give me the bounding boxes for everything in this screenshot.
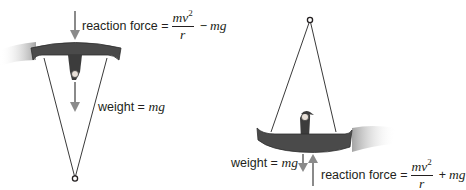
reaction-tail: mg (210, 19, 227, 33)
reaction-tail: mg (449, 168, 466, 182)
person-hanging-icon (68, 55, 82, 80)
reaction-prefix: reaction force = (82, 20, 169, 33)
motion-blur-left (0, 42, 36, 66)
weight-arrow-right (298, 163, 308, 172)
rope-left-a (44, 58, 75, 178)
operator: − (200, 20, 207, 33)
fraction: mv2 r (172, 11, 194, 41)
right-weight-label: weight = mg (231, 156, 298, 170)
pivot-left (72, 176, 77, 181)
right-reaction-force-label: reaction force = mv2 r + mg (321, 160, 466, 190)
rope-right-b (310, 20, 336, 132)
reaction-arrow-right (308, 154, 318, 163)
left-weight-label: weight = mg (98, 100, 165, 114)
left-reaction-force-label: reaction force = mv2 r − mg (82, 11, 227, 41)
reaction-prefix: reaction force = (321, 169, 408, 182)
motion-blur-right (352, 126, 396, 152)
weight-arrow-left (70, 102, 80, 112)
operator: + (439, 169, 446, 182)
fraction: mv2 r (411, 160, 433, 190)
reaction-arrow-left (70, 30, 80, 40)
pivot-right (307, 17, 312, 22)
rope-left-b (75, 58, 107, 178)
